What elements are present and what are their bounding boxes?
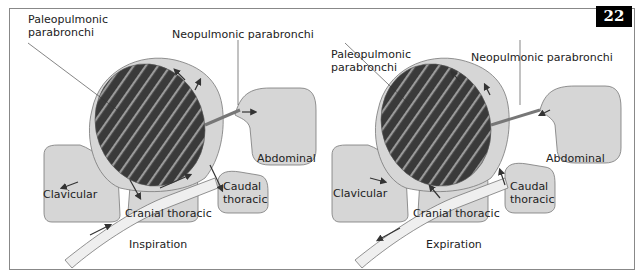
cranial-thoracic-label: Cranial thoracic <box>125 207 212 220</box>
inspiration-caption: Inspiration <box>129 238 187 251</box>
neopulmonic-label: Neopulmonic parabronchi <box>172 28 314 41</box>
clavicular-label: Clavicular <box>333 187 387 200</box>
clavicular-label: Clavicular <box>43 188 97 201</box>
paleopulmonic-label: Paleopulmonic parabronchi <box>331 48 411 74</box>
abdominal-label: Abdominal <box>257 152 316 165</box>
abdominal-label: Abdominal <box>546 152 605 165</box>
expiration-caption: Expiration <box>426 238 482 251</box>
neopulmonic-label: Neopulmonic parabronchi <box>471 51 613 64</box>
diagram-art <box>0 0 642 279</box>
cranial-thoracic-label: Cranial thoracic <box>413 207 500 220</box>
caudal-thoracic-label: Caudal thoracic <box>510 180 554 206</box>
paleopulmonic-label: Paleopulmonic parabronchi <box>28 13 108 39</box>
caudal-thoracic-label: Caudal thoracic <box>223 180 267 206</box>
